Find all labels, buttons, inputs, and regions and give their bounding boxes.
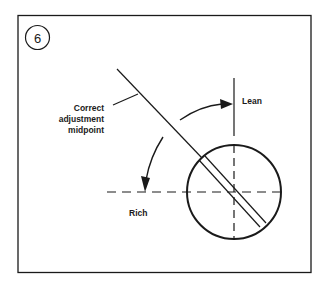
figure-frame [18, 16, 311, 273]
rich-arrowhead-icon [141, 176, 150, 192]
callout-label-line1: Correct [74, 103, 104, 113]
step-number: 6 [34, 31, 41, 46]
callout-label-line3: midpoint [68, 125, 104, 135]
lean-arrow-icon [180, 104, 222, 120]
lean-label: Lean [242, 96, 262, 106]
step-badge: 6 [26, 26, 50, 50]
adjustment-diagram: 6 Correct adjustment midpoint Lean Rich [0, 0, 324, 287]
rich-arrow-icon [146, 137, 163, 180]
callout-leader-line [113, 94, 138, 105]
lean-arrowhead-icon [220, 99, 233, 109]
screw-slot-edge-a [199, 160, 260, 227]
screw-slot-edge-b [205, 156, 266, 223]
rich-label: Rich [129, 208, 147, 218]
callout-label-line2: adjustment [59, 114, 105, 124]
